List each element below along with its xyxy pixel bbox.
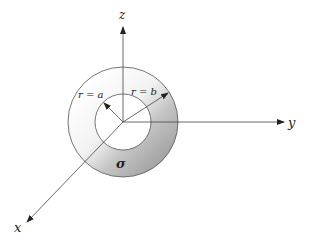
inner-radius-label: r = a — [78, 89, 104, 100]
inner-radius-arrow — [104, 103, 123, 122]
charge-density-label: σ — [116, 156, 126, 171]
y-axis-label: y — [287, 115, 296, 130]
annulus-diagram: z y x r = a r = b σ — [0, 0, 312, 244]
outer-radius-label: r = b — [131, 86, 157, 97]
z-axis-label: z — [118, 8, 126, 22]
x-axis-label: x — [14, 220, 22, 235]
